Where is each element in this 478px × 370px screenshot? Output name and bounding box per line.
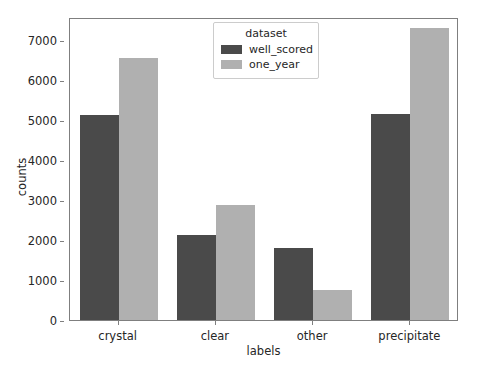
y-tick-label: 6000 <box>28 74 57 88</box>
x-tick-mark <box>312 321 313 325</box>
legend-title: dataset <box>221 27 311 40</box>
y-tick-label: 7000 <box>28 34 57 48</box>
bar <box>80 115 119 320</box>
legend-label: one_year <box>249 58 300 71</box>
y-tick-label: 4000 <box>28 154 57 168</box>
legend-label: well_scored <box>249 43 313 56</box>
x-tick-label: precipitate <box>378 329 440 343</box>
y-tick-mark <box>60 201 64 202</box>
legend-item-well-scored[interactable]: well_scored <box>221 43 311 56</box>
bar <box>410 28 449 320</box>
y-tick-label: 1000 <box>28 274 57 288</box>
y-tick-mark <box>60 241 64 242</box>
y-tick-mark <box>60 81 64 82</box>
x-axis-label: labels <box>69 344 458 358</box>
bar <box>177 235 216 320</box>
legend-swatch-well-scored <box>221 45 242 54</box>
y-axis: 7000 6000 5000 4000 3000 2000 1000 0 <box>0 0 69 370</box>
y-tick-mark <box>60 121 64 122</box>
y-tick-label: 3000 <box>28 194 57 208</box>
x-tick-mark <box>118 321 119 325</box>
bar <box>274 248 313 320</box>
y-tick-mark <box>60 41 64 42</box>
y-tick-mark <box>60 281 64 282</box>
bar <box>313 290 352 320</box>
y-tick-label: 2000 <box>28 234 57 248</box>
legend-item-one-year[interactable]: one_year <box>221 58 311 71</box>
y-tick-label: 5000 <box>28 114 57 128</box>
x-tick-label: other <box>297 329 328 343</box>
bar <box>371 114 410 320</box>
legend-swatch-one-year <box>221 60 242 69</box>
y-tick-mark <box>60 321 64 322</box>
y-tick-label: 0 <box>50 314 57 328</box>
y-tick-mark <box>60 161 64 162</box>
bar-chart-figure: 7000 6000 5000 4000 3000 2000 1000 0 cou… <box>0 0 478 370</box>
x-tick-mark <box>215 321 216 325</box>
bar <box>216 205 255 320</box>
y-axis-label: counts <box>15 147 29 207</box>
bar <box>119 58 158 320</box>
x-tick-label: crystal <box>98 329 137 343</box>
legend: dataset well_scored one_year <box>213 22 319 79</box>
x-tick-mark <box>409 321 410 325</box>
x-tick-label: clear <box>201 329 229 343</box>
